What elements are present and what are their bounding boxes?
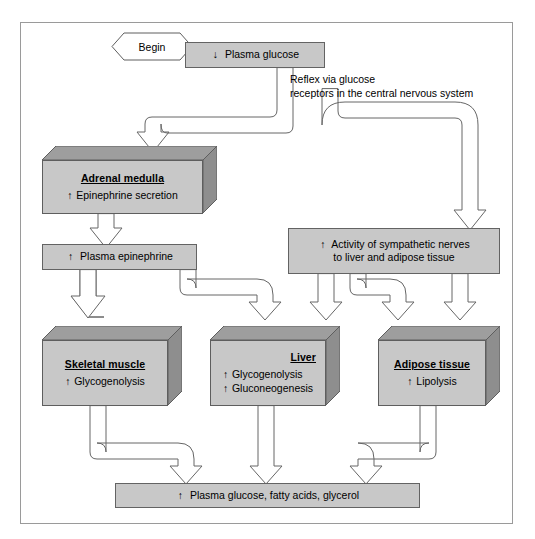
liver-line-1: Glycogenolysis xyxy=(232,368,303,380)
node-adrenal-medulla: Adrenal medulla ↑Epinephrine secretion xyxy=(42,146,217,214)
node-sympathetic-nerves-label-2: to liver and adipose tissue xyxy=(333,251,454,264)
adrenal-medulla-line-1: Epinephrine secretion xyxy=(76,189,178,201)
up-arrow-icon: ↑ xyxy=(223,367,232,381)
node-sympathetic-nerves: ↑ Activity of sympathetic nerves to live… xyxy=(288,228,500,274)
adrenal-medulla-title: Adrenal medulla xyxy=(81,171,164,185)
node-plasma-epinephrine-label: Plasma epinephrine xyxy=(80,250,173,263)
up-arrow-icon: ↑ xyxy=(318,238,327,251)
node-plasma-epinephrine: ↑ Plasma epinephrine xyxy=(42,244,197,270)
up-arrow-icon: ↑ xyxy=(67,188,76,202)
up-arrow-icon: ↑ xyxy=(407,374,416,388)
begin-node: Begin xyxy=(112,33,192,60)
down-arrow-icon: ↓ xyxy=(211,48,220,61)
up-arrow-icon: ↑ xyxy=(223,381,232,395)
node-sympathetic-nerves-label: Activity of sympathetic nerves xyxy=(331,238,469,251)
node-skeletal-muscle: Skeletal muscle ↑Glycogenolysis xyxy=(42,326,182,406)
begin-label: Begin xyxy=(112,33,192,60)
adipose-tissue-line-1: Lipolysis xyxy=(416,375,456,387)
liver-title: Liver xyxy=(290,350,316,364)
skeletal-muscle-title: Skeletal muscle xyxy=(65,357,145,371)
diagram-canvas: Begin ↓ Plasma glucose Reflex via glucos… xyxy=(0,0,535,539)
skeletal-muscle-line-1: Glycogenolysis xyxy=(74,375,145,387)
liver-line-2: Gluconeogenesis xyxy=(232,382,313,394)
up-arrow-icon: ↑ xyxy=(65,374,74,388)
node-adipose-tissue: Adipose tissue ↑Lipolysis xyxy=(378,326,500,406)
node-result: ↑ Plasma glucose, fatty acids, glycerol xyxy=(115,483,420,508)
node-liver: Liver ↑Glycogenolysis ↑Gluconeogenesis xyxy=(210,326,340,406)
up-arrow-icon: ↑ xyxy=(176,489,185,502)
node-plasma-glucose-label: Plasma glucose xyxy=(225,48,299,61)
node-plasma-glucose: ↓ Plasma glucose xyxy=(185,42,325,68)
adipose-tissue-title: Adipose tissue xyxy=(394,357,470,371)
annotation-reflex-note: Reflex via glucose receptors in the cent… xyxy=(290,73,515,101)
node-result-label: Plasma glucose, fatty acids, glycerol xyxy=(190,489,359,502)
up-arrow-icon: ↑ xyxy=(66,250,75,263)
